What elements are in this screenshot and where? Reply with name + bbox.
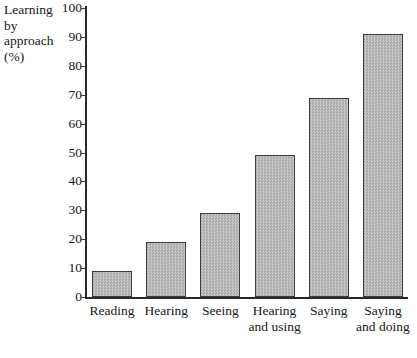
y-tick-mark bbox=[81, 210, 85, 211]
x-category-label: Reading bbox=[85, 303, 139, 319]
x-category-label: Hearing bbox=[139, 303, 193, 319]
bar[interactable] bbox=[92, 271, 132, 297]
x-category-label: Saying and doing bbox=[356, 303, 410, 335]
y-tick-label: 70 bbox=[56, 88, 82, 102]
bar-slot bbox=[193, 8, 247, 297]
bar[interactable] bbox=[363, 34, 403, 297]
bar-slot bbox=[139, 8, 193, 297]
y-tick-mark bbox=[81, 95, 85, 96]
y-tick-mark bbox=[81, 297, 85, 298]
bar-chart: Learning by approach (%) 010203040506070… bbox=[0, 0, 417, 358]
bar[interactable] bbox=[146, 242, 186, 297]
bar[interactable] bbox=[200, 213, 240, 297]
y-tick-mark bbox=[81, 239, 85, 240]
y-tick-mark bbox=[81, 153, 85, 154]
y-tick-label: 90 bbox=[56, 30, 82, 44]
plot-area bbox=[85, 8, 410, 297]
y-tick-mark bbox=[81, 268, 85, 269]
y-tick-mark bbox=[81, 37, 85, 38]
y-tick-mark bbox=[81, 8, 85, 9]
y-tick-mark bbox=[81, 66, 85, 67]
bar[interactable] bbox=[309, 98, 349, 297]
bar-slot bbox=[302, 8, 356, 297]
x-axis-line bbox=[85, 297, 408, 299]
y-tick-label: 20 bbox=[56, 232, 82, 246]
y-tick-label: 0 bbox=[56, 290, 82, 304]
x-axis-category-labels: ReadingHearingSeeingHearing and usingSay… bbox=[85, 303, 410, 355]
y-axis-tick-labels: 0102030405060708090100 bbox=[52, 0, 82, 358]
y-tick-label: 50 bbox=[56, 146, 82, 160]
y-tick-label: 60 bbox=[56, 117, 82, 131]
bar-slot bbox=[85, 8, 139, 297]
bar[interactable] bbox=[255, 155, 295, 297]
x-category-label: Hearing and using bbox=[248, 303, 302, 335]
y-tick-mark bbox=[81, 181, 85, 182]
y-tick-label: 40 bbox=[56, 174, 82, 188]
y-tick-label: 100 bbox=[56, 1, 82, 15]
bar-slot bbox=[356, 8, 410, 297]
bar-slot bbox=[248, 8, 302, 297]
x-category-label: Seeing bbox=[193, 303, 247, 319]
y-tick-label: 80 bbox=[56, 59, 82, 73]
y-tick-label: 30 bbox=[56, 203, 82, 217]
y-tick-label: 10 bbox=[56, 261, 82, 275]
y-tick-mark bbox=[81, 124, 85, 125]
x-category-label: Saying bbox=[302, 303, 356, 319]
